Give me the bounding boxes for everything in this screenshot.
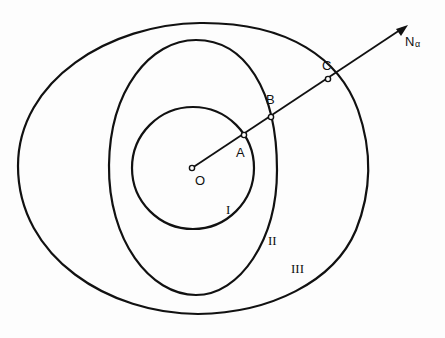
label-region-I: I	[226, 202, 230, 217]
label-B: B	[266, 92, 275, 107]
label-region-III: III	[291, 261, 304, 276]
diagram-svg: O A B C N α I II III	[0, 0, 445, 338]
point-C	[325, 76, 330, 81]
ray-N-alpha	[192, 28, 403, 168]
label-C: C	[322, 58, 331, 73]
diagram-canvas: O A B C N α I II III	[0, 0, 445, 338]
point-O	[189, 165, 194, 170]
point-B	[268, 114, 273, 119]
label-alpha-subscript: α	[415, 39, 420, 49]
label-region-II: II	[268, 233, 277, 248]
label-A: A	[236, 145, 245, 160]
label-N: N	[405, 34, 414, 49]
point-A	[241, 132, 246, 137]
label-O: O	[195, 173, 205, 188]
